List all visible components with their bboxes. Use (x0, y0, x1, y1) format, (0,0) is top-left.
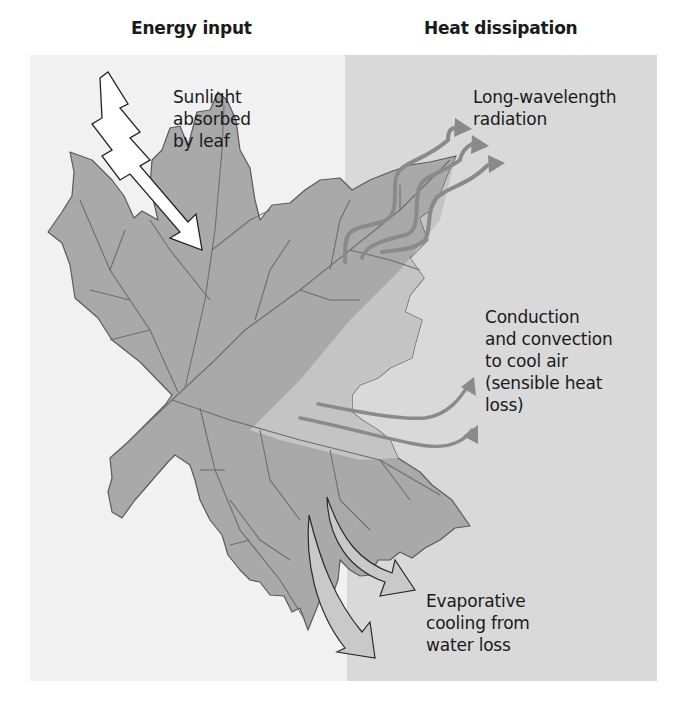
sunlight-label: Sunlight absorbed by leaf (173, 86, 251, 152)
long-wavelength-radiation-label: Long-wavelength radiation (473, 86, 616, 130)
maple-leaf-icon (48, 92, 470, 630)
convection-arrowheads (461, 377, 478, 444)
evaporative-cooling-label: Evaporative cooling from water loss (426, 590, 530, 656)
conduction-convection-label: Conduction and convection to cool air (s… (485, 306, 613, 416)
